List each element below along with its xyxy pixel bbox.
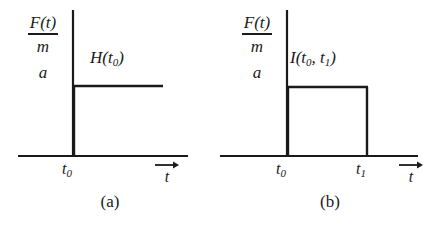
function-label-h-sub: 0 [113, 56, 119, 68]
y-axis-numerator: F(t) [242, 14, 272, 32]
function-label-h-head: H(t [90, 48, 113, 67]
xtick-label-t0: t0 [62, 160, 72, 178]
xtick-label-t1: t1 [356, 160, 366, 178]
function-label-i-sub1: 1 [325, 56, 331, 68]
function-label-i-sub0: 0 [306, 56, 312, 68]
y-axis-label: F(t) m a [18, 14, 68, 81]
function-label-i-tail: ) [330, 48, 336, 67]
panel-b-caption: (b) [220, 192, 440, 212]
y-axis-numerator: F(t) [28, 14, 58, 32]
function-label-h: H(t0) [90, 48, 124, 68]
fraction-bar [28, 33, 58, 35]
y-axis-label: F(t) m a [232, 14, 282, 81]
y-axis-fraction: F(t) m [28, 14, 58, 55]
y-axis-fraction: F(t) m [242, 14, 272, 55]
panel-b: F(t) m a I(t0, t1) t0 t1 t (b) [220, 0, 440, 230]
xtick-label-t0-sub: 0 [280, 167, 286, 179]
xtick-label-t1-sub: 1 [360, 167, 366, 179]
x-axis-label-t: t [152, 160, 182, 185]
x-axis-label-t: t [396, 160, 426, 185]
x-axis-label-t-text: t [396, 169, 426, 185]
figure-root: F(t) m a H(t0) t0 t (a) [0, 0, 440, 230]
y-axis-denominator: m [242, 37, 272, 55]
y-axis-denominator: m [28, 37, 58, 55]
function-label-i: I(t0, t1) [290, 48, 336, 68]
x-axis-label-t-text: t [152, 169, 182, 185]
xtick-label-t0: t0 [276, 160, 286, 178]
amplitude-label: a [18, 64, 68, 81]
amplitude-label: a [232, 64, 282, 81]
function-label-i-head: I(t [290, 48, 306, 67]
panel-a-caption: (a) [0, 192, 220, 212]
xtick-label-t0-sub: 0 [66, 167, 72, 179]
panel-a: F(t) m a H(t0) t0 t (a) [0, 0, 220, 230]
function-label-h-tail: ) [118, 48, 124, 67]
fraction-bar [242, 33, 272, 35]
function-label-i-mid: , t [312, 48, 325, 67]
